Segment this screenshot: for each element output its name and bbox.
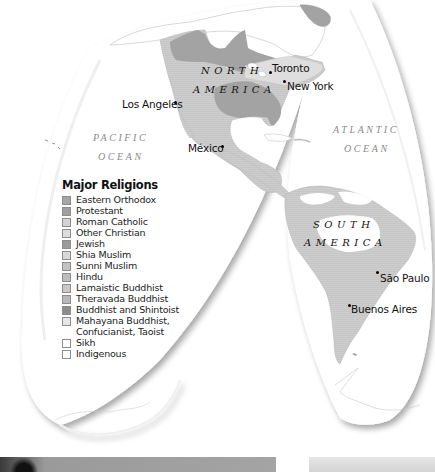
legend-swatch bbox=[62, 317, 71, 326]
continent-label-north-america-2: AMERICA bbox=[193, 84, 276, 95]
ocean-label-pacific: PACIFIC bbox=[93, 132, 148, 143]
legend-label: Buddhist and Shintoist bbox=[76, 305, 179, 316]
legend-label: Mahayana Buddhist, bbox=[76, 316, 170, 327]
ocean-label-atlantic: ATLANTIC bbox=[333, 124, 399, 135]
legend-swatch bbox=[62, 284, 71, 293]
legend-swatch bbox=[62, 350, 71, 359]
city-label-toronto: Toronto bbox=[272, 62, 309, 74]
legend-label: Lamaistic Buddhist bbox=[76, 283, 163, 294]
legend-label: Shia Muslim bbox=[76, 250, 131, 261]
city-dot-sao-paulo bbox=[376, 271, 379, 274]
city-label-sao-paulo: São Paulo bbox=[380, 272, 429, 284]
legend-label: Roman Catholic bbox=[76, 217, 148, 228]
legend-label: Jewish bbox=[76, 239, 105, 250]
photo-left bbox=[0, 457, 276, 472]
legend-swatch bbox=[62, 251, 71, 260]
continent-label-north-america: NORTH bbox=[201, 65, 263, 76]
legend-label: Indigenous bbox=[76, 349, 126, 360]
legend-label: Protestant bbox=[76, 206, 123, 217]
legend-label-line2: Confucianist, Taoist bbox=[76, 327, 170, 338]
legend-swatch bbox=[62, 218, 71, 227]
city-label-mexico: México bbox=[188, 142, 223, 154]
legend-swatch bbox=[62, 207, 71, 216]
city-label-los-angeles: Los Angeles bbox=[122, 98, 183, 110]
city-dot-new-york bbox=[283, 80, 286, 83]
legend-swatch bbox=[62, 262, 71, 271]
legend-swatch bbox=[62, 196, 71, 205]
legend-label: Theravada Buddhist bbox=[76, 294, 168, 305]
city-label-buenos-aires: Buenos Aires bbox=[351, 303, 417, 315]
legend-label: Eastern Orthodox bbox=[76, 195, 156, 206]
ocean-label-atlantic-2: OCEAN bbox=[344, 143, 390, 154]
continent-label-south-america-2: AMERICA bbox=[304, 237, 387, 248]
legend-label: Sikh bbox=[76, 338, 95, 349]
legend-major-religions: Major Religions Eastern OrthodoxProtesta… bbox=[62, 178, 179, 360]
legend-item: Indigenous bbox=[62, 349, 179, 360]
city-label-new-york: New York bbox=[287, 80, 333, 92]
legend-item: Mahayana Buddhist,Confucianist, Taoist bbox=[62, 316, 179, 338]
legend-label: Hindu bbox=[76, 272, 103, 283]
legend-swatch bbox=[62, 273, 71, 282]
legend-swatch bbox=[62, 240, 71, 249]
legend-items: Eastern OrthodoxProtestantRoman Catholic… bbox=[62, 195, 179, 360]
legend-swatch bbox=[62, 229, 71, 238]
photo-left-silhouette bbox=[10, 457, 38, 472]
legend-label: Sunni Muslim bbox=[76, 261, 137, 272]
photo-right bbox=[309, 457, 435, 472]
legend-label: Other Christian bbox=[76, 228, 145, 239]
legend-swatch bbox=[62, 295, 71, 304]
legend-swatch bbox=[62, 306, 71, 315]
ocean-label-pacific-2: OCEAN bbox=[98, 151, 144, 162]
continent-label-south-america: SOUTH bbox=[313, 219, 374, 230]
legend-swatch bbox=[62, 339, 71, 348]
legend-title: Major Religions bbox=[62, 178, 179, 192]
